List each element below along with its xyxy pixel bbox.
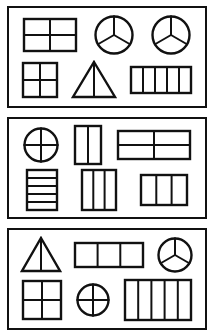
circle-3-parts-icon (93, 14, 135, 56)
rectangle-4-parts (22, 17, 78, 53)
rectangle-2-parts (73, 124, 103, 166)
rectangle-4-parts-icon (22, 17, 78, 53)
triangle-2-parts-icon (20, 236, 62, 274)
rectangle-5-parts (25, 168, 59, 212)
rectangle-2-parts-icon (73, 124, 103, 166)
square-4-parts-icon (21, 61, 59, 99)
rectangle-5-parts-icon (25, 168, 59, 212)
rectangle-5-parts-icon (129, 65, 193, 95)
panel-1-row-1 (15, 12, 199, 58)
circle-3-parts-icon (156, 236, 194, 274)
rectangle-3-parts (80, 168, 118, 212)
circle-4-parts-icon (75, 282, 111, 318)
circle-4-parts (22, 126, 60, 164)
square-4-parts (21, 279, 63, 321)
rectangle-5-parts (129, 65, 193, 95)
circle-3-parts (93, 14, 135, 56)
panel-2-row-2 (15, 167, 199, 213)
square-4-parts (21, 61, 59, 99)
panel-3 (7, 228, 207, 330)
rectangle-5-parts-icon (123, 278, 193, 322)
rectangle-3-parts (73, 241, 145, 269)
rectangle-3-parts-icon (73, 241, 145, 269)
triangle-2-parts-icon (71, 60, 117, 100)
circle-3-parts-icon (150, 14, 192, 56)
rectangle-5-parts (123, 278, 193, 322)
worksheet-page (0, 0, 214, 336)
rectangle-4-parts (116, 129, 192, 161)
circle-4-parts (75, 282, 111, 318)
rectangle-3-parts (139, 173, 189, 207)
rectangle-3-parts-icon (80, 168, 118, 212)
rectangle-3-parts-icon (139, 173, 189, 207)
triangle-2-parts (20, 236, 62, 274)
panel-2-row-1 (15, 123, 199, 167)
circle-3-parts (150, 14, 192, 56)
triangle-2-parts (71, 60, 117, 100)
circle-4-parts-icon (22, 126, 60, 164)
rectangle-4-parts-icon (116, 129, 192, 161)
panel-3-row-1 (15, 234, 199, 276)
panel-1 (7, 6, 207, 108)
panel-1-row-2 (15, 58, 199, 102)
square-4-parts-icon (21, 279, 63, 321)
panel-3-row-2 (15, 276, 199, 324)
panel-2 (7, 117, 207, 219)
circle-3-parts (156, 236, 194, 274)
